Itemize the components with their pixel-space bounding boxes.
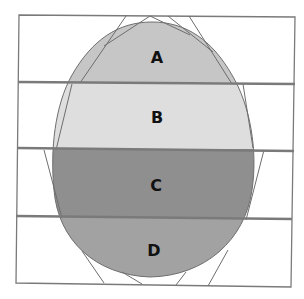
egg-diagram: A B C D xyxy=(0,0,304,299)
region-b-label: B xyxy=(151,108,163,127)
region-c-label: C xyxy=(150,176,162,195)
region-a-label: A xyxy=(151,48,164,67)
region-d-label: D xyxy=(147,241,160,260)
